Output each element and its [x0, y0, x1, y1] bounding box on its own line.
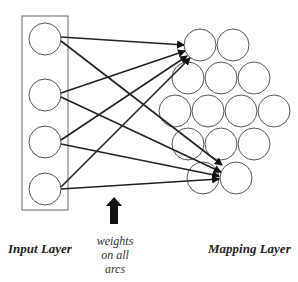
mapping-node	[258, 95, 290, 127]
mapping-node	[238, 62, 270, 94]
annotation-line: on all	[90, 248, 140, 262]
mapping-node	[187, 162, 219, 194]
mapping-node	[238, 128, 270, 160]
input-node	[29, 23, 61, 55]
mapping-node	[220, 162, 252, 194]
diagram-canvas	[0, 0, 298, 282]
mapping-node	[192, 95, 224, 127]
weight-arc	[61, 41, 222, 165]
weight-arcs	[61, 37, 222, 189]
weight-arc	[61, 37, 184, 45]
input-nodes	[29, 23, 61, 205]
input-layer-label: Input Layer	[8, 241, 72, 257]
mapping-node	[172, 128, 204, 160]
input-node	[29, 126, 61, 158]
mapping-layer-label: Mapping Layer	[208, 241, 291, 257]
weights-annotation: weights on all arcs	[90, 234, 140, 276]
mapping-node	[217, 29, 249, 61]
mapping-node	[205, 62, 237, 94]
mapping-node	[159, 95, 191, 127]
weight-arc	[61, 179, 219, 189]
annotation-line: arcs	[90, 262, 140, 276]
input-node	[29, 79, 61, 111]
weight-arc	[61, 51, 185, 93]
mapping-node	[225, 95, 257, 127]
mapping-node	[172, 62, 204, 94]
input-node	[29, 173, 61, 205]
up-arrow-icon	[106, 197, 122, 224]
weight-arc	[61, 58, 190, 187]
mapping-node	[184, 29, 216, 61]
input-layer-box	[22, 16, 68, 210]
annotation-line: weights	[90, 234, 140, 248]
